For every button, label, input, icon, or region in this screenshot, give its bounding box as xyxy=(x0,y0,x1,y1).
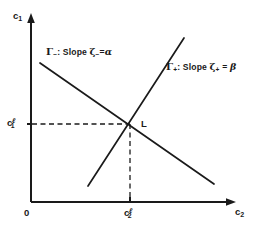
c1-axis-label-subscript: 1 xyxy=(18,15,22,22)
c1-tick-label-subscript: 1 xyxy=(11,122,15,129)
origin-label: 0 xyxy=(24,208,29,218)
figure-container: c1 c2 0 cℓ1 cℓ2 Γ−: Slope ζ−=α Γ+: Slope… xyxy=(0,0,263,231)
gamma-plus-annotation: Γ+: Slope ζ+ = β xyxy=(166,62,236,74)
intersection-point-label: L xyxy=(141,119,147,129)
c1-tick-label: cℓ1 xyxy=(7,118,15,130)
c2-axis-arrowhead xyxy=(226,198,236,206)
gamma-plus-equals: = xyxy=(222,62,227,72)
gamma-plus-slope-value: β xyxy=(230,61,236,72)
gamma-plus-slope-text: : Slope xyxy=(177,62,207,72)
c2-axis-label: c2 xyxy=(235,207,244,218)
c2-tick-label-subscript: 2 xyxy=(128,212,132,219)
c1-axis-label: c1 xyxy=(13,11,22,22)
gamma-plus-zeta-subscript: + xyxy=(216,66,220,73)
c2-axis-label-subscript: 2 xyxy=(240,211,244,218)
figure-canvas xyxy=(0,0,263,231)
c1-axis-arrowhead xyxy=(27,13,35,23)
gamma-minus-slope-value: α xyxy=(105,46,112,57)
c2-tick-label: cℓ2 xyxy=(124,208,132,220)
gamma-minus-slope-text: : Slope xyxy=(57,47,87,57)
gamma-minus-annotation: Γ−: Slope ζ−=α xyxy=(46,47,112,59)
